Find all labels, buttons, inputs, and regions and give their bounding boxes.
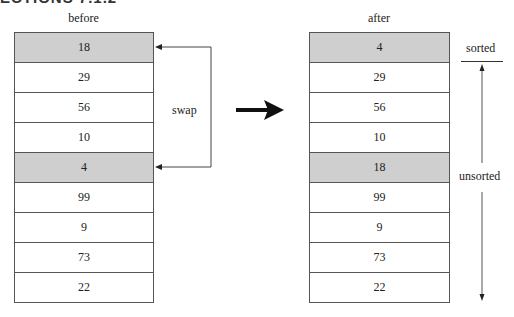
arrowhead-up-icon	[480, 64, 485, 71]
connectors	[0, 0, 514, 317]
sorted-label: sorted	[466, 41, 495, 56]
transform-arrow-icon	[236, 100, 284, 120]
swap-label: swap	[172, 103, 197, 118]
arrowhead-left-icon	[155, 44, 162, 50]
unsorted-label: unsorted	[459, 169, 500, 184]
arrowhead-down-icon	[480, 294, 485, 301]
arrowhead-left-icon	[155, 164, 162, 170]
